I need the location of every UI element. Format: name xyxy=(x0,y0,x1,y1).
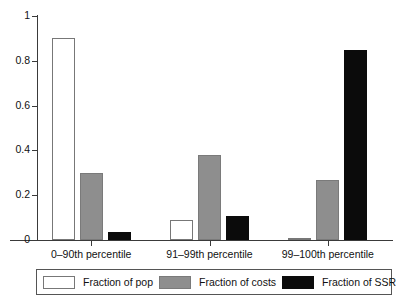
x-axis-category-label: 99–100th percentile xyxy=(268,248,388,260)
legend-label: Fraction of SSR xyxy=(322,276,396,288)
x-axis-category-label: 91–99th percentile xyxy=(150,248,270,260)
y-axis-tick xyxy=(32,240,38,241)
x-axis-tick xyxy=(91,241,92,246)
legend-label: Fraction of costs xyxy=(199,276,276,288)
legend-entry[interactable]: Fraction of SSR xyxy=(276,276,396,289)
legend-label: Fraction of pop xyxy=(83,276,153,288)
bar xyxy=(226,216,249,240)
x-axis-line xyxy=(10,240,393,241)
bar xyxy=(198,155,221,240)
y-axis-tick-label: 1 xyxy=(0,10,30,21)
legend-swatch-icon xyxy=(159,276,191,289)
bar xyxy=(316,180,339,240)
y-axis-tick-label: 0.4 xyxy=(0,144,30,155)
chart-legend: Fraction of popFraction of costsFraction… xyxy=(36,269,392,295)
bar xyxy=(170,220,193,240)
bar xyxy=(80,173,103,240)
legend-swatch-icon xyxy=(43,276,75,289)
bar xyxy=(52,38,75,240)
bar xyxy=(288,238,311,240)
bar-chart: 10.80.60.40.20 0–90th percentile91–99th … xyxy=(0,0,407,302)
y-axis-tick-label: 0.8 xyxy=(0,55,30,66)
legend-entry[interactable]: Fraction of pop xyxy=(37,276,153,289)
bar xyxy=(108,232,131,240)
legend-entry[interactable]: Fraction of costs xyxy=(153,276,276,289)
y-axis-tick-label: 0.2 xyxy=(0,189,30,200)
bar xyxy=(344,50,367,240)
x-axis-tick xyxy=(210,241,211,246)
plot-area xyxy=(38,16,393,240)
legend-swatch-icon xyxy=(282,276,314,289)
x-axis-category-label: 0–90th percentile xyxy=(31,248,151,260)
y-axis-tick-label: 0 xyxy=(0,234,30,245)
x-axis-tick xyxy=(328,241,329,246)
y-axis-tick-label: 0.6 xyxy=(0,100,30,111)
